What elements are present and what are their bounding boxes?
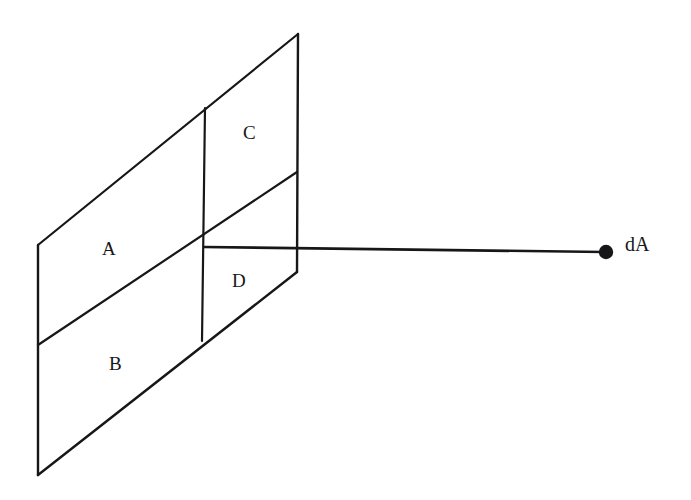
- plane-right-edge: [297, 34, 298, 272]
- plane-center-vertical-divider: [202, 108, 205, 341]
- diagram-canvas: A B C D dA: [0, 0, 691, 500]
- region-label-c: C: [243, 123, 256, 142]
- region-label-a: A: [102, 239, 116, 258]
- region-label-d: D: [232, 271, 246, 290]
- plane-middle-diagonal-divider: [38, 172, 297, 345]
- plane-top-diagonal-edge: [38, 34, 298, 245]
- plane-bottom-diagonal-edge: [38, 272, 297, 475]
- da-point-marker: [599, 245, 613, 259]
- region-label-b: B: [109, 354, 122, 373]
- ray-to-da-line: [204, 247, 604, 252]
- point-label-da: dA: [625, 234, 649, 254]
